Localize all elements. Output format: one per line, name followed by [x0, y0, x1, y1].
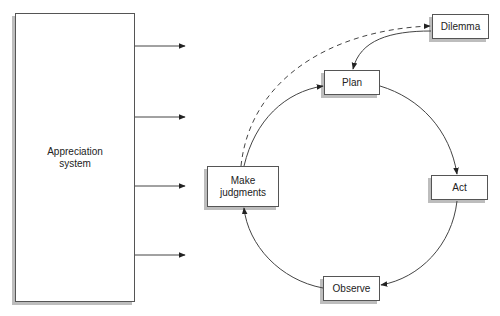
arrow-judgments-to-plan	[244, 86, 323, 166]
plan-label: Plan	[342, 77, 362, 89]
arrow-plan-to-act	[380, 86, 457, 174]
arrow-dilemma-to-plan	[353, 31, 431, 69]
plan-node: Plan	[324, 70, 380, 95]
dashed-arrow-judgments-to-dilemma	[241, 26, 430, 166]
arrow-observe-to-judgments	[244, 208, 323, 288]
dilemma-label: Dilemma	[441, 21, 480, 33]
appreciation-system-box: Appreciation system	[15, 13, 135, 302]
appreciation-system-label: Appreciation system	[47, 146, 103, 170]
make-judgments-node: Make judgments	[207, 166, 279, 207]
make-judgments-label: Make judgments	[220, 175, 266, 199]
arrow-act-to-observe	[381, 201, 457, 285]
observe-node: Observe	[323, 276, 380, 301]
observe-label: Observe	[333, 283, 371, 295]
dilemma-node: Dilemma	[432, 14, 489, 39]
act-node: Act	[431, 175, 488, 200]
act-label: Act	[452, 182, 466, 194]
